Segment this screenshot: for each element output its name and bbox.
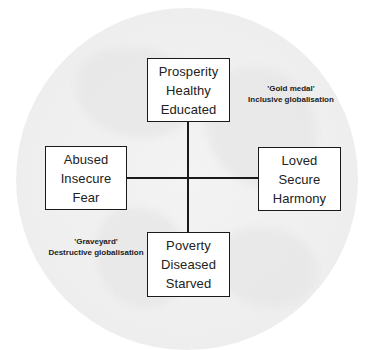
box-line: Educated bbox=[161, 100, 217, 119]
box-line: Poverty bbox=[166, 236, 211, 255]
box-line: Insecure bbox=[61, 169, 112, 188]
box-line: Abused bbox=[64, 150, 109, 169]
box-right-loved: Loved Secure Harmony bbox=[258, 147, 341, 211]
box-line: Harmony bbox=[273, 189, 326, 208]
box-left-abused: Abused Insecure Fear bbox=[45, 146, 127, 210]
box-line: Healthy bbox=[166, 81, 211, 100]
annotation-title: 'Gold medal' bbox=[246, 83, 336, 94]
box-top-prosperity: Prosperity Healthy Educated bbox=[147, 58, 230, 122]
annotation-graveyard: 'Graveyard' Destructive globalisation bbox=[44, 236, 148, 258]
annotation-subtitle: Inclusive globalisation bbox=[246, 94, 336, 105]
annotation-gold-medal: 'Gold medal' Inclusive globalisation bbox=[246, 83, 336, 105]
box-line: Diseased bbox=[161, 255, 216, 274]
box-line: Secure bbox=[279, 170, 321, 189]
box-bottom-poverty: Poverty Diseased Starved bbox=[147, 232, 230, 297]
box-line: Prosperity bbox=[159, 62, 219, 81]
annotation-subtitle: Destructive globalisation bbox=[44, 247, 148, 258]
annotation-title: 'Graveyard' bbox=[44, 236, 148, 247]
box-line: Starved bbox=[166, 274, 212, 293]
box-line: Loved bbox=[282, 151, 318, 170]
horizontal-axis-line bbox=[126, 177, 259, 179]
landmass-shape bbox=[216, 228, 316, 308]
box-line: Fear bbox=[72, 188, 99, 207]
